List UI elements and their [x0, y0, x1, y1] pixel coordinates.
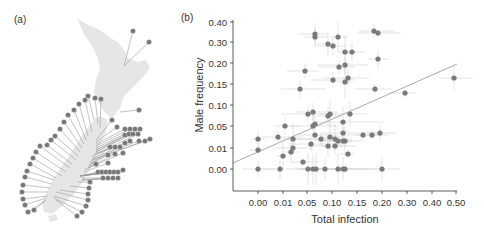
data-point: [297, 86, 302, 91]
data-point: [327, 134, 332, 139]
x-axis-title: Total infection: [311, 213, 378, 225]
y-tick-label: 0.20: [209, 58, 228, 69]
data-point: [312, 132, 317, 137]
data-point: [379, 166, 384, 171]
data-point: [255, 136, 260, 141]
data-point: [402, 90, 407, 95]
scatter-chart: 0.400.300.200.150.100.050.010.00 0.000.0…: [0, 0, 484, 234]
x-tick-label: 0.20: [373, 197, 392, 208]
data-point: [340, 130, 345, 135]
data-points: [255, 28, 456, 171]
data-point: [327, 111, 332, 116]
error-bars: [242, 22, 472, 186]
data-point: [325, 143, 330, 148]
data-point: [290, 136, 295, 141]
y-tick-label: 0.10: [209, 100, 228, 111]
data-point: [308, 141, 313, 146]
data-point: [332, 143, 337, 148]
data-point: [302, 68, 307, 73]
data-point: [255, 166, 260, 171]
y-tick-label: 0.30: [209, 37, 228, 48]
x-axis-ticks: 0.000.010.050.100.150.200.300.400.50: [249, 191, 466, 208]
data-point: [342, 138, 347, 143]
x-tick-label: 0.10: [323, 197, 342, 208]
data-point: [375, 30, 380, 35]
x-tick-label: 0.40: [423, 197, 442, 208]
data-point: [322, 166, 327, 171]
data-point: [342, 166, 347, 171]
data-point: [369, 132, 374, 137]
data-point: [288, 149, 293, 154]
data-point: [255, 147, 260, 152]
x-tick-label: 0.50: [447, 197, 466, 208]
data-point: [300, 159, 305, 164]
data-point: [330, 43, 335, 48]
data-point: [325, 41, 330, 46]
data-point: [336, 64, 341, 69]
data-point: [280, 153, 285, 158]
y-tick-label: 0.01: [209, 143, 228, 154]
data-point: [347, 111, 352, 116]
data-point: [372, 86, 377, 91]
data-point: [345, 75, 350, 80]
data-point: [349, 49, 354, 54]
y-axis-ticks: 0.400.300.200.150.100.050.010.00: [209, 17, 234, 175]
y-tick-label: 0.40: [209, 17, 228, 28]
data-point: [340, 119, 345, 124]
data-point: [330, 77, 335, 82]
data-point: [335, 138, 340, 143]
data-point: [305, 166, 310, 171]
y-tick-label: 0.00: [209, 164, 228, 175]
x-tick-label: 0.30: [398, 197, 417, 208]
data-point: [312, 121, 317, 126]
data-point: [318, 136, 323, 141]
x-tick-label: 0.05: [298, 197, 317, 208]
y-tick-label: 0.15: [209, 79, 228, 90]
data-point: [451, 75, 456, 80]
data-point: [335, 34, 340, 39]
data-point: [312, 34, 317, 39]
data-point: [342, 62, 347, 67]
y-tick-label: 0.05: [209, 121, 228, 132]
data-point: [360, 132, 365, 137]
data-point: [313, 166, 318, 171]
data-point: [377, 130, 382, 135]
data-point: [282, 123, 287, 128]
data-point: [342, 49, 347, 54]
x-tick-label: 0.15: [348, 197, 367, 208]
y-axis-title: Male frequency: [193, 57, 205, 133]
data-point: [345, 151, 350, 156]
data-point: [277, 166, 282, 171]
data-point: [275, 134, 280, 139]
x-tick-label: 0.01: [274, 197, 293, 208]
data-point: [335, 166, 340, 171]
data-point: [305, 111, 310, 116]
x-tick-label: 0.00: [249, 197, 268, 208]
data-point: [310, 109, 315, 114]
data-point: [375, 56, 380, 61]
